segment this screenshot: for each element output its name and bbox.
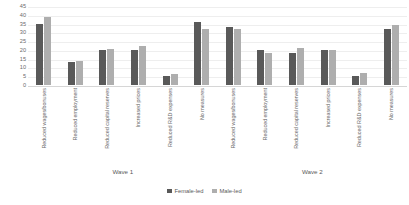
bar-male-led <box>265 53 272 85</box>
bar-female-led <box>257 50 264 85</box>
legend-item[interactable]: Female-led <box>167 188 203 194</box>
bar-female-led <box>131 50 138 85</box>
category-label: Increased prices <box>135 88 141 128</box>
category-group <box>123 6 155 85</box>
bar-male-led <box>171 74 178 85</box>
y-axis-tick: 30 <box>20 31 26 37</box>
y-axis-tick: 25 <box>20 39 26 45</box>
category-group <box>218 6 250 85</box>
x-axis-category-labels: Reduced wages/bonusesReduced employmentR… <box>28 88 407 162</box>
category-group <box>312 6 344 85</box>
bar-female-led <box>36 24 43 85</box>
y-axis-tick: 15 <box>20 57 26 63</box>
y-axis-tick: 10 <box>20 66 26 72</box>
bar-male-led <box>392 25 399 85</box>
bar-female-led <box>321 50 328 85</box>
bar-female-led <box>352 76 359 85</box>
category-label: Reduced capital reserves <box>293 88 299 149</box>
y-axis-tick: 0 <box>23 83 26 89</box>
category-label-cell: Reduced employment <box>60 88 92 162</box>
bar-male-led <box>202 29 209 85</box>
category-group <box>28 6 60 85</box>
category-group <box>375 6 407 85</box>
category-label-cell: Reduced wages/bonuses <box>28 88 60 162</box>
bar-male-led <box>76 61 83 85</box>
category-label-cell: No measures <box>375 88 407 162</box>
bar-female-led <box>384 29 391 85</box>
category-label: Reduced R&D expenses <box>167 88 173 147</box>
category-group <box>60 6 92 85</box>
wave-group <box>218 6 408 85</box>
y-axis-tick: 45 <box>20 4 26 10</box>
bar-male-led <box>139 46 146 85</box>
y-axis-tick: 5 <box>23 74 26 80</box>
plot-area: 051015202530354045 <box>0 6 409 86</box>
category-label: Reduced employment <box>262 88 268 140</box>
category-label: Reduced employment <box>72 88 78 140</box>
chart-title <box>0 0 409 3</box>
bar-male-led <box>107 49 114 85</box>
category-label-cell: Reduced employment <box>249 88 281 162</box>
wave-label: Wave 1 <box>28 166 218 178</box>
category-label: Reduced wages/bonuses <box>41 88 47 149</box>
bar-female-led <box>289 53 296 85</box>
bar-male-led <box>44 17 51 85</box>
category-label: No measures <box>199 88 205 120</box>
category-group <box>344 6 376 85</box>
category-label-cell: Reduced wages/bonuses <box>217 88 249 162</box>
y-axis-tick: 40 <box>20 13 26 19</box>
chart-legend: Female-ledMale-led <box>0 184 409 198</box>
bar-female-led <box>99 50 106 85</box>
category-group <box>186 6 218 85</box>
bar-male-led <box>234 29 241 85</box>
bar-female-led <box>194 22 201 85</box>
category-group <box>281 6 313 85</box>
category-group <box>154 6 186 85</box>
category-label: Increased prices <box>325 88 331 128</box>
bar-chart: 051015202530354045 Reduced wages/bonuses… <box>0 0 409 205</box>
bar-series-container <box>28 6 407 85</box>
category-label: No measures <box>388 88 394 120</box>
y-axis-tick: 20 <box>20 48 26 54</box>
legend-label: Female-led <box>174 188 203 194</box>
bar-female-led <box>68 62 75 85</box>
category-label-cell: Increased prices <box>123 88 155 162</box>
plot-canvas <box>28 6 407 86</box>
category-label-cell: Increased prices <box>312 88 344 162</box>
legend-swatch-icon <box>212 189 217 194</box>
category-label: Reduced R&D expenses <box>356 88 362 147</box>
bar-male-led <box>329 50 336 85</box>
legend-label: Male-led <box>219 188 241 194</box>
x-axis-group-labels: Wave 1Wave 2 <box>28 166 407 178</box>
bar-female-led <box>163 76 170 85</box>
category-label: Reduced wages/bonuses <box>230 88 236 149</box>
y-axis: 051015202530354045 <box>8 6 26 86</box>
category-label-cell: Reduced capital reserves <box>91 88 123 162</box>
bar-female-led <box>226 27 233 85</box>
bar-male-led <box>297 48 304 85</box>
category-label-cell: No measures <box>186 88 218 162</box>
y-axis-tick: 35 <box>20 22 26 28</box>
legend-swatch-icon <box>167 189 172 194</box>
axis-baseline <box>28 86 407 87</box>
category-label-cell: Reduced capital reserves <box>281 88 313 162</box>
category-label-cell: Reduced R&D expenses <box>344 88 376 162</box>
category-label-cell: Reduced R&D expenses <box>154 88 186 162</box>
category-group <box>91 6 123 85</box>
bar-male-led <box>360 73 367 85</box>
legend-item[interactable]: Male-led <box>212 188 241 194</box>
wave-group <box>28 6 218 85</box>
wave-label: Wave 2 <box>218 166 408 178</box>
category-label: Reduced capital reserves <box>104 88 110 149</box>
category-group <box>249 6 281 85</box>
